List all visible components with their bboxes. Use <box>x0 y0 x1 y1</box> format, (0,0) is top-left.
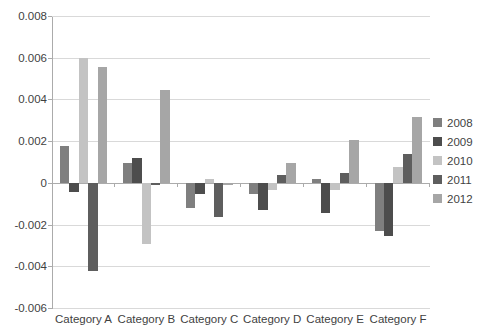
bar-2011-category-f <box>403 154 412 183</box>
legend-label: 2008 <box>447 117 473 129</box>
y-axis-tick-label: -0.006 <box>0 302 47 315</box>
y-axis-tick-label: -0.004 <box>0 260 47 273</box>
y-axis-tick-label: 0 <box>0 177 47 190</box>
bar-2011-category-d <box>277 175 286 183</box>
bar-2009-category-d <box>258 183 267 210</box>
legend-item-2008: 2008 <box>433 113 473 132</box>
x-axis-category-label: Category A <box>52 313 115 326</box>
legend-swatch-icon <box>433 137 442 146</box>
bar-2010-category-f <box>393 167 402 184</box>
legend-label: 2011 <box>447 174 472 186</box>
bar-2011-category-c <box>214 183 223 216</box>
y-axis-tick-label: 0.006 <box>0 52 47 65</box>
legend-swatch-icon <box>433 175 442 184</box>
bar-2008-category-f <box>375 183 384 231</box>
x-axis-category-label: Category E <box>304 313 367 326</box>
bar-2008-category-a <box>60 146 69 184</box>
bar-2011-category-a <box>88 183 97 271</box>
chart-panel: 0.0080.0060.0040.0020-0.002-0.004-0.006 … <box>0 0 488 335</box>
legend-swatch-icon <box>433 156 442 165</box>
legend-swatch-icon <box>433 118 442 127</box>
legend-item-2011: 2011 <box>433 170 473 189</box>
bar-2008-category-d <box>249 183 258 193</box>
bar-2012-category-f <box>412 117 421 184</box>
x-axis-category-label: Category B <box>115 313 178 326</box>
bar-2009-category-e <box>321 183 330 212</box>
bar-2008-category-c <box>186 183 195 208</box>
y-axis-tick-label: 0.002 <box>0 135 47 148</box>
bar-2010-category-e <box>330 183 339 189</box>
legend-item-2009: 2009 <box>433 132 473 151</box>
bar-2010-category-d <box>268 183 277 189</box>
bar-2012-category-e <box>349 140 358 184</box>
bar-2010-category-c <box>205 179 214 183</box>
legend-swatch-icon <box>433 194 442 203</box>
y-axis-tick-label: 0.008 <box>0 10 47 23</box>
y-axis-tick-label: 0.004 <box>0 93 47 106</box>
x-axis-category-label: Category D <box>241 313 304 326</box>
legend-item-2012: 2012 <box>433 189 473 208</box>
bar-2009-category-a <box>69 183 78 191</box>
legend-label: 2012 <box>447 193 473 205</box>
y-axis-tick-label: -0.002 <box>0 219 47 232</box>
legend-label: 2010 <box>447 155 473 167</box>
x-axis-category-label: Category F <box>367 313 430 326</box>
bar-2009-category-c <box>195 183 204 193</box>
bar-2012-category-b <box>160 90 169 184</box>
bar-2010-category-a <box>79 58 88 183</box>
bar-2011-category-e <box>340 173 349 183</box>
bar-2009-category-b <box>132 158 141 183</box>
bar-2008-category-b <box>123 163 132 184</box>
bar-2012-category-d <box>286 163 295 184</box>
bar-2012-category-c <box>223 183 232 185</box>
bar-2011-category-b <box>151 183 160 185</box>
x-axis-category-label: Category C <box>178 313 241 326</box>
bar-2008-category-e <box>312 179 321 183</box>
bar-chart-plot-area <box>0 0 488 335</box>
legend-item-2010: 2010 <box>433 151 473 170</box>
bar-2009-category-f <box>384 183 393 235</box>
bar-2012-category-a <box>98 67 107 184</box>
chart-legend: 20082009201020112012 <box>433 113 473 208</box>
bar-2010-category-b <box>142 183 151 243</box>
legend-label: 2009 <box>447 136 473 148</box>
